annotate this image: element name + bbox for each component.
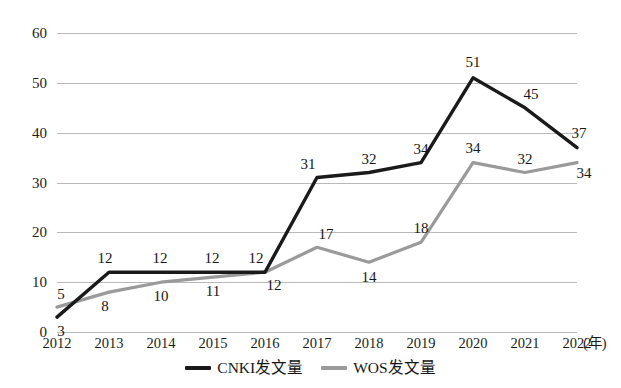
x-axis-tick-label: 2019 <box>407 336 436 351</box>
data-label-cnki: 12 <box>205 251 220 266</box>
x-axis-tick-label: 2020 <box>459 336 488 351</box>
data-label-wos: 32 <box>518 151 533 166</box>
legend-item-wos[interactable]: WOS发文量 <box>321 360 435 376</box>
x-axis-tick-label: 2013 <box>95 336 124 351</box>
data-label-cnki: 12 <box>249 251 264 266</box>
data-label-cnki: 32 <box>362 151 377 166</box>
gridline <box>57 232 577 233</box>
x-axis-tick-label: 2021 <box>511 336 540 351</box>
gridline <box>57 183 577 184</box>
data-label-cnki: 45 <box>524 86 539 101</box>
data-label-wos: 18 <box>414 221 429 236</box>
x-axis-tick-label: 2015 <box>199 336 228 351</box>
line-chart: 6050403020100 58101112171418343234312121… <box>0 0 621 388</box>
data-label-cnki: 34 <box>414 141 429 156</box>
gridline <box>57 133 577 134</box>
y-axis-tick-label: 60 <box>7 26 47 41</box>
x-axis-tick-label: 2017 <box>303 336 332 351</box>
y-axis-tick-label: 20 <box>7 225 47 240</box>
data-label-wos: 11 <box>206 284 220 299</box>
data-label-wos: 10 <box>154 289 169 304</box>
x-axis-tick-label: 2014 <box>147 336 176 351</box>
legend-swatch-icon <box>185 366 211 370</box>
data-label-wos: 34 <box>577 165 592 180</box>
legend-swatch-icon <box>321 366 347 370</box>
data-label-wos: 14 <box>362 270 377 285</box>
y-axis-tick-label: 50 <box>7 75 47 90</box>
chart-legend: CNKI发文量WOS发文量 <box>0 360 621 376</box>
y-axis-tick-label: 0 <box>7 325 47 340</box>
x-axis-tick-label: 2016 <box>251 336 280 351</box>
y-axis-tick-label: 10 <box>7 275 47 290</box>
data-label-wos: 34 <box>466 140 481 155</box>
gridline <box>57 282 577 283</box>
data-label-cnki: 12 <box>153 251 168 266</box>
y-axis-tick-label: 30 <box>7 175 47 190</box>
legend-label: WOS发文量 <box>353 360 435 376</box>
data-label-cnki: 51 <box>466 54 481 69</box>
x-axis-unit-label: (年) <box>583 336 607 351</box>
data-label-wos: 12 <box>267 278 282 293</box>
legend-item-cnki[interactable]: CNKI发文量 <box>185 360 303 376</box>
series-line-wos <box>57 163 577 308</box>
data-label-wos: 5 <box>57 287 65 302</box>
legend-label: CNKI发文量 <box>217 360 303 376</box>
y-axis-tick-label: 40 <box>7 125 47 140</box>
data-label-cnki: 31 <box>301 156 316 171</box>
series-lines <box>0 0 621 388</box>
gridline <box>57 332 577 333</box>
x-axis-tick-label: 2018 <box>355 336 384 351</box>
data-label-wos: 8 <box>101 299 109 314</box>
gridline <box>57 33 577 34</box>
x-axis-tick-label: 2012 <box>43 336 72 351</box>
data-label-cnki: 37 <box>572 125 587 140</box>
data-label-cnki: 12 <box>98 251 113 266</box>
gridline <box>57 83 577 84</box>
data-label-wos: 17 <box>319 227 334 242</box>
